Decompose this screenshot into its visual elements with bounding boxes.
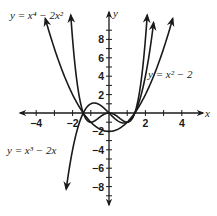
y-tick-label: −4 [92, 144, 104, 156]
y-tick-label: 4 [98, 70, 104, 82]
y-axis-label: y [112, 7, 118, 19]
x-tick-label: −4 [30, 117, 42, 129]
axes: −4−2248642−2−4−6−8 [20, 12, 203, 205]
x-axis-label: x [204, 107, 210, 119]
quartic-label: y = x⁴ − 2x² [9, 9, 64, 21]
cubic-label: y = x³ − 2x [6, 144, 56, 156]
y-tick-label: 2 [98, 89, 104, 101]
y-tick-label: −6 [92, 162, 104, 174]
function-graph: −4−2248642−2−4−6−8 y = x⁴ − 2x² y = x² −… [0, 0, 217, 216]
y-tick-label: 8 [98, 33, 104, 45]
x-tick-label: 4 [179, 117, 185, 129]
y-tick-label: 6 [98, 52, 104, 64]
x-tick-label: −2 [67, 117, 79, 129]
parabola-label: y = x² − 2 [147, 68, 193, 80]
x-tick-label: 2 [142, 117, 148, 129]
labels: y = x⁴ − 2x² y = x² − 2 y = x³ − 2x y x [6, 7, 210, 156]
y-tick-label: −8 [92, 181, 104, 193]
